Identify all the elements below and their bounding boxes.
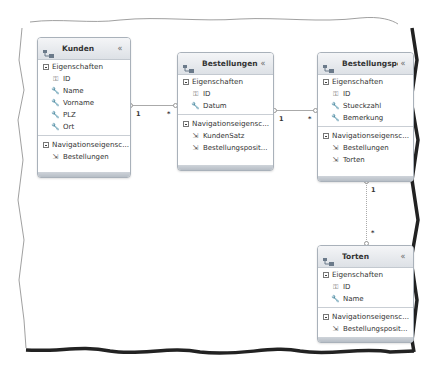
wrench-icon: 🔧 (191, 102, 200, 111)
association-bestellungen-bestellungspositionen[interactable] (275, 110, 315, 111)
navigation-section-header[interactable]: Navigationseigensc... (318, 310, 413, 323)
property-row[interactable]: 🔧Name (318, 293, 413, 305)
entity-kunden[interactable]: Kunden « Eigenschaften ⚿ID 🔧Name 🔧Vornam… (37, 37, 131, 178)
navigation-property-row[interactable]: ⇲Bestellungen (318, 142, 413, 154)
collapse-section-icon[interactable] (323, 272, 329, 278)
navigation-property-row[interactable]: ⇲Torten (318, 154, 413, 166)
navigation-property-icon: ⇲ (331, 156, 340, 165)
collapse-icon[interactable]: « (398, 59, 408, 68)
navigation-section-header[interactable]: Navigationseigensc... (178, 117, 273, 130)
property-row[interactable]: ⚿ID (318, 281, 413, 293)
navigation-property-icon: ⇲ (331, 325, 340, 334)
navigation-property-row[interactable]: ⇲Bestellungsposit... (318, 323, 413, 335)
wrench-icon: 🔧 (51, 111, 60, 120)
entity-footer (318, 337, 413, 342)
collapse-section-icon[interactable] (323, 133, 329, 139)
entity-header[interactable]: Bestellungen « (178, 53, 273, 75)
navigation-property-icon: ⇲ (51, 153, 60, 162)
entity-bestellungen[interactable]: Bestellungen « Eigenschaften ⚿ID 🔧Datum … (177, 52, 274, 171)
navigation-property-icon: ⇲ (331, 144, 340, 153)
key-icon: ⚿ (191, 90, 200, 99)
multiplicity-label: 1 (279, 115, 284, 123)
wrench-icon: 🔧 (331, 295, 340, 304)
entity-footer (318, 176, 413, 181)
entity-type-icon (183, 59, 195, 69)
entity-footer (178, 165, 273, 170)
property-row[interactable]: ⚿ID (318, 88, 413, 100)
property-row[interactable]: 🔧Stueckzahl (318, 100, 413, 112)
navigation-property-row[interactable]: ⇲KundenSatz (178, 130, 273, 142)
section-divider (38, 135, 130, 136)
collapse-section-icon[interactable] (183, 79, 189, 85)
navigation-property-row[interactable]: ⇲Bestellungen (38, 151, 130, 163)
navigation-property-icon: ⇲ (191, 132, 200, 141)
wrench-icon: 🔧 (331, 102, 340, 111)
property-row[interactable]: 🔧Ort (38, 121, 130, 133)
entity-torten[interactable]: Torten « Eigenschaften ⚿ID 🔧Name Navigat… (317, 245, 414, 343)
navigation-section-header[interactable]: Navigationseigensc... (38, 138, 130, 151)
multiplicity-label: * (308, 115, 311, 123)
entity-type-icon (323, 59, 335, 69)
properties-section-header[interactable]: Eigenschaften (178, 75, 273, 88)
entity-title: Bestellungspo... (342, 59, 398, 68)
collapse-section-icon[interactable] (43, 64, 49, 70)
properties-section-header[interactable]: Eigenschaften (38, 60, 130, 73)
entity-title: Bestellungen (202, 59, 258, 68)
property-row[interactable]: 🔧PLZ (38, 109, 130, 121)
section-divider (318, 126, 413, 127)
entity-footer (38, 172, 130, 177)
navigation-section-header[interactable]: Navigationseigensc... (318, 129, 413, 142)
entity-header[interactable]: Torten « (318, 246, 413, 268)
navigation-property-icon: ⇲ (191, 144, 200, 153)
wrench-icon: 🔧 (331, 114, 340, 123)
collapse-section-icon[interactable] (323, 79, 329, 85)
property-row[interactable]: ⚿ID (38, 73, 130, 85)
wrench-icon: 🔧 (51, 99, 60, 108)
navigation-property-row[interactable]: ⇲Bestellungsposit... (178, 142, 273, 154)
entity-header[interactable]: Bestellungspo... « (318, 53, 413, 75)
association-kunden-bestellungen[interactable] (131, 105, 176, 106)
entity-title: Kunden (62, 44, 115, 53)
wrench-icon: 🔧 (51, 87, 60, 96)
properties-section-header[interactable]: Eigenschaften (318, 268, 413, 281)
collapse-icon[interactable]: « (258, 59, 268, 68)
multiplicity-label: 1 (136, 110, 141, 118)
wrench-icon: 🔧 (51, 123, 60, 132)
entity-header[interactable]: Kunden « (38, 38, 130, 60)
collapse-icon[interactable]: « (398, 252, 408, 261)
entity-title: Torten (342, 252, 398, 261)
collapse-section-icon[interactable] (183, 121, 189, 127)
multiplicity-label: 1 (371, 186, 376, 194)
properties-section-header[interactable]: Eigenschaften (318, 75, 413, 88)
section-divider (178, 114, 273, 115)
property-row[interactable]: 🔧Bemerkung (318, 112, 413, 124)
property-row[interactable]: ⚿ID (178, 88, 273, 100)
collapse-icon[interactable]: « (115, 44, 125, 53)
property-row[interactable]: 🔧Vorname (38, 97, 130, 109)
property-row[interactable]: 🔧Name (38, 85, 130, 97)
association-bestellungspositionen-torten[interactable] (366, 182, 368, 244)
entity-bestellungspositionen[interactable]: Bestellungspo... « Eigenschaften ⚿ID 🔧St… (317, 52, 414, 182)
section-divider (318, 307, 413, 308)
multiplicity-label: * (167, 110, 170, 118)
key-icon: ⚿ (331, 283, 340, 292)
collapse-section-icon[interactable] (323, 314, 329, 320)
entity-type-icon (323, 252, 335, 262)
key-icon: ⚿ (51, 75, 60, 84)
multiplicity-label: * (371, 229, 374, 237)
collapse-section-icon[interactable] (43, 142, 49, 148)
key-icon: ⚿ (331, 90, 340, 99)
entity-type-icon (43, 44, 55, 54)
property-row[interactable]: 🔧Datum (178, 100, 273, 112)
